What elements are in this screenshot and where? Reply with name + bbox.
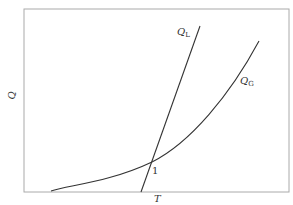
x-axis-label: T [154, 193, 161, 204]
ql-label: QL [177, 26, 190, 39]
y-axis-label: Q [6, 91, 17, 99]
intersection-label: 1 [152, 165, 158, 176]
ql-line [141, 26, 200, 192]
qg-label: QG [240, 75, 254, 88]
chart-plot [0, 0, 293, 205]
